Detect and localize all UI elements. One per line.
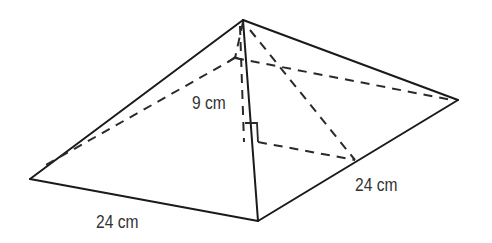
back-vertex-mark [228,57,242,62]
edge-base-front-right [258,100,458,221]
right-edge-label: 24 cm [355,174,397,196]
height-line [240,26,244,142]
edge-base-left-front [30,179,258,221]
front-edge-label: 24 cm [96,211,138,233]
hidden-edge-apex-back [235,22,243,58]
slant-height-line [250,30,355,160]
height-label: 9 cm [192,92,226,114]
center-to-midpoint-line [258,142,355,160]
edge-apex-front [243,20,258,221]
pyramid-diagram [0,0,492,243]
hidden-edge-back-right [235,58,452,100]
